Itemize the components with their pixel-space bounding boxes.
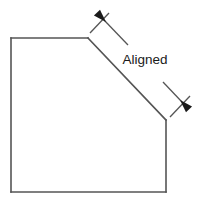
diagram-canvas: Aligned: [0, 0, 199, 206]
aligned-dimension-diagram: Aligned: [0, 0, 199, 206]
dimension-line-segment-1: [104, 20, 128, 45]
dimension-label: Aligned: [122, 52, 167, 67]
dimension-line-segment-2: [163, 82, 182, 102]
